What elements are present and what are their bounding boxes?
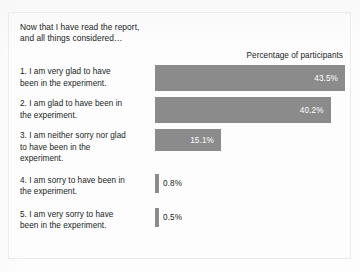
- bar: 43.5%: [155, 65, 345, 91]
- bar-row: 3. I am neither sorry nor glad to have b…: [20, 129, 345, 163]
- bar-rows: 1. I am very glad to have been in the ex…: [20, 65, 345, 231]
- bar-row-label: 5. I am very sorry to have been in the e…: [20, 208, 155, 231]
- bar-row-label: 1. I am very glad to have been in the ex…: [20, 65, 155, 88]
- bar-row: 1. I am very glad to have been in the ex…: [20, 65, 345, 91]
- bar-track: 40.2%: [155, 97, 345, 123]
- bar-track: 15.1%: [155, 129, 345, 151]
- bar-track: 43.5%: [155, 65, 345, 91]
- bar: 15.1%: [155, 129, 221, 151]
- bar-row: 5. I am very sorry to have been in the e…: [20, 208, 345, 231]
- bar-track: 0.8%: [155, 174, 345, 193]
- question-heading: Now that I have read the report, and all…: [20, 22, 345, 44]
- bar-value-label: 0.5%: [163, 208, 182, 227]
- bar: 40.2%: [155, 97, 331, 123]
- bar-value-label: 15.1%: [190, 136, 221, 145]
- bar-row-label: 2. I am glad to have been in the experim…: [20, 97, 155, 120]
- figure-content: Now that I have read the report, and all…: [8, 12, 351, 259]
- axis-title: Percentage of participants: [20, 50, 345, 61]
- bar-row-label: 3. I am neither sorry nor glad to have b…: [20, 129, 155, 163]
- bar: [155, 208, 159, 227]
- bar-track: 0.5%: [155, 208, 345, 227]
- bar-row-label: 4. I am sorry to have been in the experi…: [20, 174, 155, 197]
- bar-value-label: 0.8%: [163, 174, 182, 193]
- bar-row: 4. I am sorry to have been in the experi…: [20, 174, 345, 197]
- bar-row: 2. I am glad to have been in the experim…: [20, 97, 345, 123]
- bar: [155, 174, 159, 193]
- bar-value-label: 43.5%: [314, 74, 345, 83]
- bar-value-label: 40.2%: [300, 106, 331, 115]
- figure-container: Now that I have read the report, and all…: [0, 0, 360, 272]
